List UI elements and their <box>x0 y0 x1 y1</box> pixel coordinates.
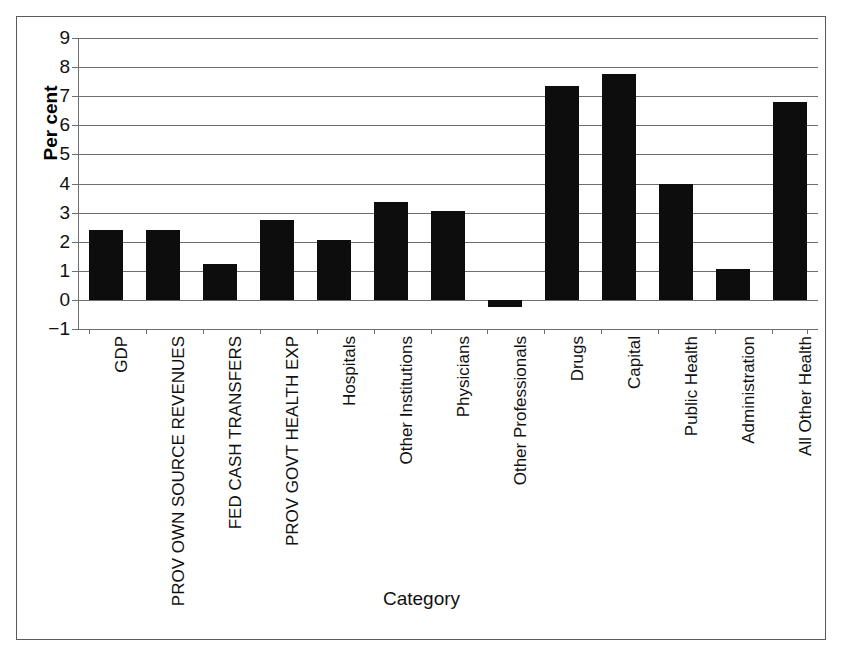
x-axis-tick-label: Administration <box>740 336 757 444</box>
x-axis-tick-mark <box>601 329 602 334</box>
bar <box>146 230 180 300</box>
bar <box>260 220 294 300</box>
chart-figure: Per cent 9876543210−1 GDPPROV OWN SOURCE… <box>0 0 843 660</box>
x-axis-tick-label: Physicians <box>455 336 472 417</box>
y-axis-tick-label: 2 <box>44 232 70 251</box>
y-axis-tick-label: −1 <box>44 319 70 338</box>
y-axis-tick-mark <box>72 271 78 272</box>
x-axis-tick-label: All Other Health <box>797 336 814 456</box>
x-axis-tick-marks <box>78 329 818 335</box>
y-axis-tick-mark <box>72 96 78 97</box>
bar <box>659 184 693 300</box>
x-axis-tick-mark <box>317 329 318 334</box>
gridline <box>78 67 818 68</box>
x-axis-tick-label: Public Health <box>683 336 700 436</box>
x-axis-tick-label: Drugs <box>569 336 586 381</box>
x-axis-tick-mark <box>431 329 432 334</box>
bar <box>203 264 237 300</box>
x-axis-tick-label: Capital <box>626 336 643 389</box>
bar <box>317 240 351 300</box>
bar <box>431 211 465 300</box>
x-axis-tick-label: Other Professionals <box>512 336 529 485</box>
x-axis-tick-mark <box>89 329 90 334</box>
y-axis-tick-label: 6 <box>44 115 70 134</box>
y-axis-tick-label: 4 <box>44 174 70 193</box>
gridline <box>78 184 818 185</box>
bar <box>545 86 579 300</box>
bar <box>488 300 522 307</box>
x-axis-tick-label: FED CASH TRANSFERS <box>227 336 244 529</box>
y-axis-tick-mark <box>72 125 78 126</box>
x-axis-tick-mark <box>658 329 659 334</box>
y-axis-tick-labels: 9876543210−1 <box>40 38 70 329</box>
gridline <box>78 300 818 301</box>
x-axis-tick-labels: GDPPROV OWN SOURCE REVENUESFED CASH TRAN… <box>78 336 818 576</box>
y-axis-tick-mark <box>72 242 78 243</box>
y-axis-tick-label: 3 <box>44 203 70 222</box>
x-axis-tick-label: PROV OWN SOURCE REVENUES <box>170 336 187 606</box>
y-axis-tick-mark <box>72 67 78 68</box>
y-axis-tick-mark <box>72 184 78 185</box>
y-axis-tick-label: 7 <box>44 86 70 105</box>
gridline <box>78 125 818 126</box>
x-axis-tick-label: Hospitals <box>341 336 358 406</box>
x-axis-tick-label: PROV GOVT HEALTH EXP <box>284 336 301 546</box>
gridline <box>78 96 818 97</box>
x-axis-tick-label: GDP <box>113 336 130 373</box>
y-axis-tick-label: 0 <box>44 290 70 309</box>
bar <box>374 202 408 299</box>
gridline <box>78 38 818 39</box>
y-axis-tick-mark <box>72 213 78 214</box>
y-axis-tick-label: 1 <box>44 261 70 280</box>
x-axis-tick-mark <box>772 329 773 334</box>
y-axis-tick-mark <box>72 38 78 39</box>
bar <box>602 74 636 300</box>
x-axis-tick-label: Other Institutions <box>398 336 415 465</box>
bar <box>716 269 750 300</box>
x-axis-tick-mark <box>715 329 716 334</box>
y-axis-tick-label: 5 <box>44 144 70 163</box>
plot-area <box>78 38 818 329</box>
y-axis-tick-label: 9 <box>44 28 70 47</box>
x-axis-tick-mark <box>146 329 147 334</box>
bar <box>89 230 123 300</box>
x-axis-tick-mark <box>807 329 808 334</box>
y-axis-tick-mark <box>72 300 78 301</box>
x-axis-tick-mark <box>374 329 375 334</box>
y-axis-tick-mark <box>72 154 78 155</box>
gridline <box>78 154 818 155</box>
y-axis-tick-label: 8 <box>44 57 70 76</box>
x-axis-title: Category <box>0 588 843 610</box>
x-axis-tick-mark <box>260 329 261 334</box>
bar <box>773 102 807 300</box>
x-axis-tick-mark <box>487 329 488 334</box>
x-axis-tick-mark <box>544 329 545 334</box>
x-axis-tick-mark <box>203 329 204 334</box>
